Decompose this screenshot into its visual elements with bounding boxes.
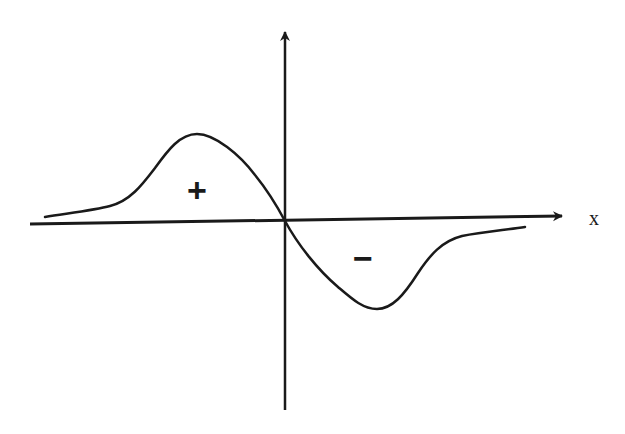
negative-region-sign: − [353,241,373,275]
positive-region-sign: + [187,173,207,207]
diagram-canvas: x + − [0,0,625,434]
x-axis [30,216,562,224]
x-axis-label: x [589,208,599,228]
plot-svg [0,0,625,434]
